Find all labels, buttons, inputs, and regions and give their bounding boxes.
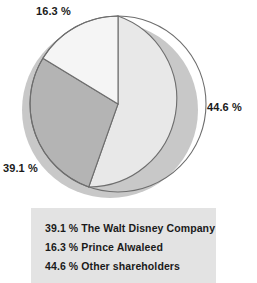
slice-label-other-shareholders: 44.6 % [207,101,242,113]
legend-item-other-shareholders[interactable]: 44.6 % Other shareholders [45,260,180,272]
legend-item-prince-alwaleed[interactable]: 16.3 % Prince Alwaleed [45,241,163,253]
slice-label-walt-disney-company: 39.1 % [3,162,38,174]
legend-item-walt-disney-company[interactable]: 39.1 % The Walt Disney Company [45,222,215,234]
slice-label-prince-alwaleed: 16.3 % [36,5,71,17]
chart-legend: 39.1 % The Walt Disney Company 16.3 % Pr… [31,208,216,283]
pie-chart: 16.3 % 44.6 % 39.1 % 39.1 % The Walt Dis… [0,0,257,283]
